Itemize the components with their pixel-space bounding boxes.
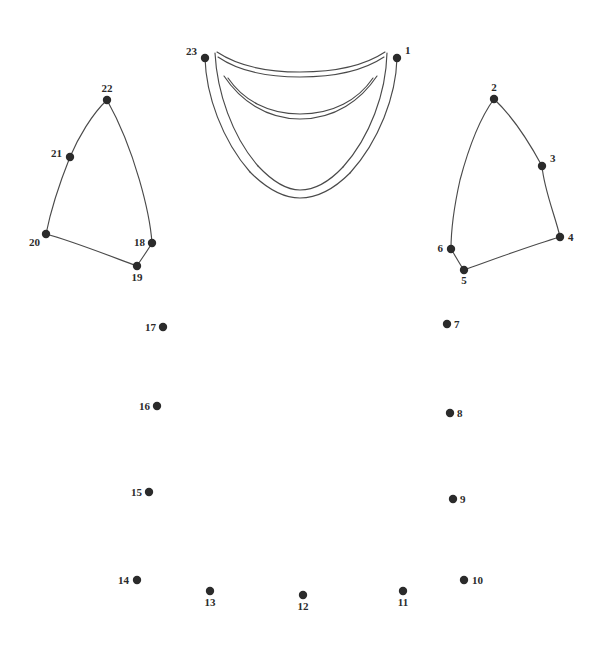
dot-21[interactable] — [66, 153, 74, 161]
dot-15[interactable] — [145, 488, 153, 496]
dot-label-5: 5 — [461, 274, 467, 286]
dot-22[interactable] — [103, 96, 111, 104]
dot-label-7: 7 — [454, 318, 460, 330]
dot-label-15: 15 — [131, 486, 143, 498]
dot-1[interactable] — [393, 54, 401, 62]
dot-23[interactable] — [201, 54, 209, 62]
dot-16[interactable] — [153, 402, 161, 410]
dot-label-10: 10 — [472, 574, 484, 586]
outline-right-sleeve — [451, 99, 560, 270]
outline-collar-inner-left — [215, 53, 258, 166]
dot-label-6: 6 — [438, 242, 444, 254]
dots-group: 1234567891011121314151617181920212223 — [29, 44, 574, 612]
dot-5[interactable] — [460, 266, 468, 274]
dot-label-12: 12 — [298, 600, 310, 612]
dot-20[interactable] — [42, 230, 50, 238]
outline-collar-inner-right — [343, 53, 387, 167]
dot-label-1: 1 — [405, 44, 411, 56]
outline-collar-outer-bottom — [250, 172, 350, 198]
connect-the-dots-canvas: 1234567891011121314151617181920212223 — [0, 0, 600, 650]
dot-label-14: 14 — [118, 574, 130, 586]
outline-collar-band-mid — [228, 78, 373, 114]
dot-label-13: 13 — [205, 596, 217, 608]
dot-label-21: 21 — [51, 147, 62, 159]
dot-label-23: 23 — [186, 45, 198, 57]
drawn-outline-group — [46, 52, 560, 270]
dot-label-9: 9 — [460, 493, 466, 505]
dot-12[interactable] — [299, 591, 307, 599]
dot-14[interactable] — [133, 576, 141, 584]
outline-collar-outer-left — [205, 58, 250, 172]
outline-collar-inner-bottom — [258, 166, 343, 190]
dot-10[interactable] — [460, 576, 468, 584]
dot-3[interactable] — [538, 162, 546, 170]
dot-13[interactable] — [206, 587, 214, 595]
dot-label-18: 18 — [134, 236, 146, 248]
dot-18[interactable] — [148, 239, 156, 247]
dot-8[interactable] — [446, 409, 454, 417]
dot-6[interactable] — [447, 245, 455, 253]
dot-label-20: 20 — [29, 236, 41, 248]
outline-collar-band-top2 — [218, 57, 384, 77]
dot-9[interactable] — [449, 495, 457, 503]
dot-label-19: 19 — [132, 271, 144, 283]
dot-label-22: 22 — [102, 82, 114, 94]
dot-label-4: 4 — [568, 231, 574, 243]
dot-label-17: 17 — [145, 321, 157, 333]
dot-7[interactable] — [443, 320, 451, 328]
dot-4[interactable] — [556, 233, 564, 241]
dot-label-11: 11 — [398, 596, 408, 608]
dot-11[interactable] — [399, 587, 407, 595]
dot-label-2: 2 — [491, 81, 497, 93]
dot-2[interactable] — [490, 95, 498, 103]
dot-17[interactable] — [159, 323, 167, 331]
dot-label-8: 8 — [457, 407, 463, 419]
dot-label-16: 16 — [139, 400, 151, 412]
dot-label-3: 3 — [550, 152, 556, 164]
dot-19[interactable] — [133, 262, 141, 270]
puzzle-drawing: 1234567891011121314151617181920212223 — [0, 0, 600, 650]
